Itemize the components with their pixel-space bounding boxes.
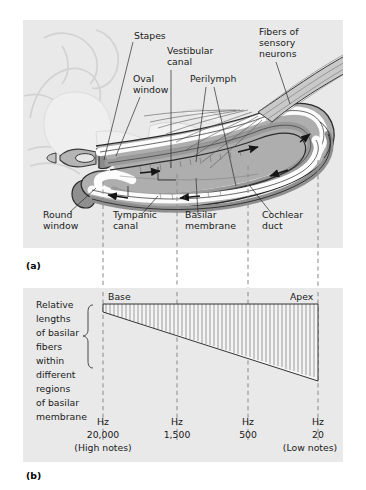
tick-value-20: 20 xyxy=(312,429,324,440)
label-round-window-2: window xyxy=(43,220,79,231)
tick-unit-1500: Hz xyxy=(171,416,183,427)
label-apex: Apex xyxy=(290,291,314,302)
label-window: window xyxy=(133,84,169,95)
caption-line-4: fibers xyxy=(36,341,62,352)
caption-line-6: different xyxy=(36,369,76,380)
panel-b: Relative lengths of basilar fibers withi… xyxy=(23,288,343,462)
label-neurons: neurons xyxy=(259,48,297,59)
caption-line-2: lengths xyxy=(36,313,71,324)
label-oval: Oval xyxy=(133,73,154,84)
caption-line-5: within xyxy=(36,355,64,366)
label-perilymph: Perilymph xyxy=(190,73,236,84)
label-tympanic: Tympanic xyxy=(112,209,157,220)
tick-note-low: (Low notes) xyxy=(283,442,337,453)
tick-unit-20000: Hz xyxy=(97,416,109,427)
label-basilar: Basilar xyxy=(185,209,217,220)
label-vestibular-canal: Vestibular xyxy=(167,45,214,56)
label-membrane: membrane xyxy=(185,220,236,231)
label-round: Round xyxy=(43,209,73,220)
cochlea-figure: Stapes Vestibular canal Fibers of sensor… xyxy=(0,0,366,490)
panel-b-tag: (b) xyxy=(26,470,41,481)
caption-line-3: of basilar xyxy=(36,327,79,338)
tick-value-1500: 1,500 xyxy=(164,429,191,440)
label-tympanic-canal-2: canal xyxy=(113,220,138,231)
tick-unit-20: Hz xyxy=(312,416,324,427)
caption-line-7: regions xyxy=(36,383,70,394)
label-vestibular-canal-2: canal xyxy=(167,56,192,67)
label-fibers-of: Fibers of xyxy=(259,26,299,37)
label-cochlear-duct-2: duct xyxy=(262,220,283,231)
label-stapes: Stapes xyxy=(134,30,166,41)
caption-line-1: Relative xyxy=(36,299,74,310)
panel-a: Stapes Vestibular canal Fibers of sensor… xyxy=(23,20,366,248)
label-cochlear: Cochlear xyxy=(262,209,303,220)
caption-line-9: membrane xyxy=(36,411,87,422)
tick-note-high: (High notes) xyxy=(74,442,131,453)
tick-value-500: 500 xyxy=(239,429,257,440)
figure-canvas: Stapes Vestibular canal Fibers of sensor… xyxy=(0,0,366,490)
tick-unit-500: Hz xyxy=(242,416,254,427)
caption-line-8: of basilar xyxy=(36,397,79,408)
label-base: Base xyxy=(108,291,131,302)
tick-value-20000: 20,000 xyxy=(87,429,120,440)
panel-a-tag: (a) xyxy=(26,260,41,271)
label-sensory: sensory xyxy=(259,37,296,48)
